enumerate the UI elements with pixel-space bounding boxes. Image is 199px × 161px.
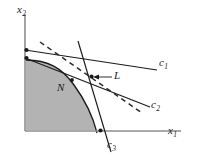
marker-x-axis-intercept (98, 128, 102, 132)
line-c3-label: c3 (107, 139, 116, 150)
figure-canvas: x2 x1 c1 c2 c3 N L (0, 0, 199, 161)
line-c3 (78, 41, 111, 152)
figure-svg (0, 0, 199, 161)
marker-region-interior-dot (70, 78, 74, 82)
region-label-N: N (57, 82, 64, 93)
y-axis-label: x2 (17, 4, 26, 15)
point-label-L: L (114, 70, 120, 81)
line-c1-label-subscript: 1 (164, 62, 168, 71)
marker-tangency-point (89, 74, 93, 78)
y-axis-label-subscript: 2 (22, 9, 26, 18)
marker-axis-intercept-upper (24, 48, 28, 52)
line-c2-label: c2 (151, 99, 160, 110)
line-c3-label-subscript: 3 (112, 144, 116, 153)
x-axis-label: x1 (168, 125, 177, 136)
marker-axis-intercept-lower (24, 56, 28, 60)
x-axis-label-subscript: 1 (173, 130, 177, 139)
line-c1-label: c1 (159, 57, 168, 68)
line-c2-label-subscript: 2 (156, 104, 160, 113)
